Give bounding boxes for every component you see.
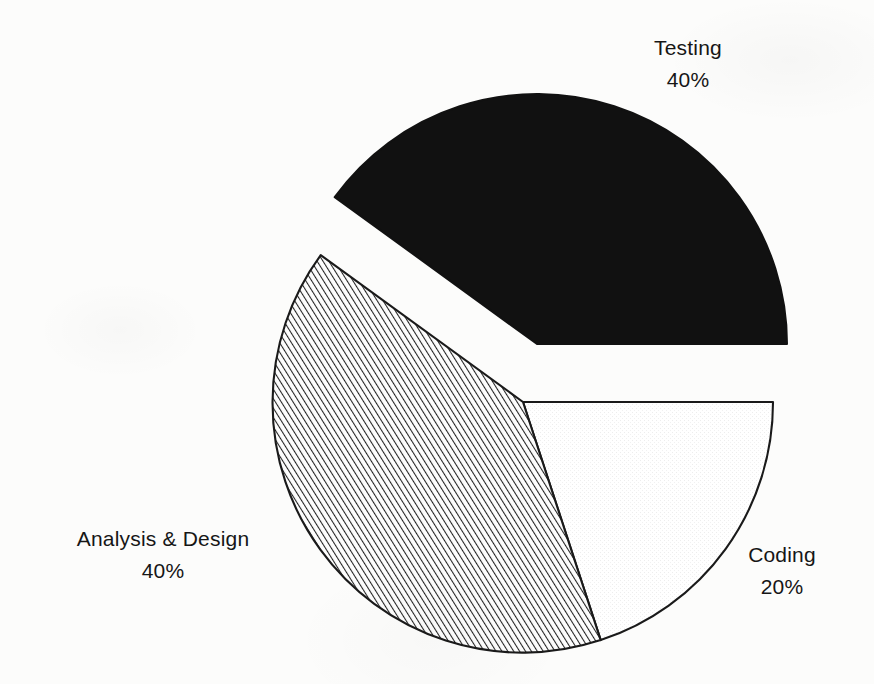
pie-label-analysis-design-name: Analysis & Design [18, 523, 308, 555]
pie-slice-testing-group [335, 94, 787, 344]
pie-label-analysis-design: Analysis & Design 40% [18, 523, 308, 587]
pie-label-analysis-design-percent: 40% [18, 555, 308, 587]
pie-label-coding: Coding 20% [700, 539, 864, 603]
pie-label-coding-percent: 20% [700, 571, 864, 603]
pie-slice-testing[interactable] [335, 94, 787, 344]
pie-label-coding-name: Coding [700, 539, 864, 571]
pie-label-testing: Testing 40% [588, 32, 788, 96]
pie-label-testing-name: Testing [588, 32, 788, 64]
pie-chart-figure: Testing 40% Analysis & Design 40% Coding… [0, 0, 874, 684]
pie-label-testing-percent: 40% [588, 64, 788, 96]
